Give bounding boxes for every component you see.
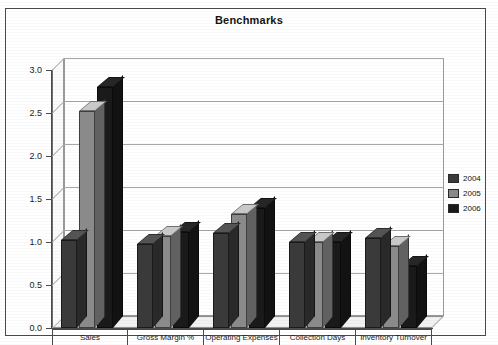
x-axis-category-label: Collection Days [280,330,356,345]
bar-2004-sales [61,240,77,328]
legend-label: 2004 [463,174,481,183]
bar-2004-collection-days [289,242,305,328]
x-axis-category-label: Sales [52,330,128,345]
bar-side-face [171,224,181,328]
legend-swatch-icon [448,204,459,213]
bar-side-face [247,203,257,328]
legend-label: 2006 [463,204,481,213]
legend-item-2004[interactable]: 2004 [448,172,492,185]
x-axis-category-label: Gross Margin % [128,330,204,345]
bar-side-face [265,196,275,328]
x-axis-category-label: Inventory Turnover [356,330,432,345]
bar-front-face [61,240,77,328]
bar-side-face [189,220,199,328]
bar-side-face [417,254,427,328]
legend-swatch-icon [448,189,459,198]
legend-label: 2005 [463,189,481,198]
bar-front-face [289,242,305,328]
y-axis-tick-label: 2.0 [8,151,42,161]
legend-item-2005[interactable]: 2005 [448,187,492,200]
bar-side-face [153,232,163,328]
bar-side-face [323,230,333,328]
bar-front-face [137,244,153,328]
y-axis-tick-label: 2.5 [8,108,42,118]
bar-2004-inventory-turnover [365,238,381,328]
y-axis-tick-label: 1.5 [8,194,42,204]
y-axis-tick-label: 3.0 [8,65,42,75]
y-axis-line [51,70,52,329]
x-axis-category-band: SalesGross Margin %Operating ExpensesCol… [52,329,432,344]
bar-side-face [399,234,409,328]
bar-side-face [381,226,391,328]
bar-side-face [95,99,105,328]
bar-side-face [113,75,123,328]
legend-item-2006[interactable]: 2006 [448,202,492,215]
x-axis-category-label: Operating Expenses [204,330,280,345]
bar-front-face [365,238,381,328]
legend-swatch-icon [448,174,459,183]
bar-2004-operating-expenses [213,233,229,328]
bar-side-face [341,230,351,328]
y-axis-tick-label: 0.0 [8,323,42,333]
y-axis-tick-label: 0.5 [8,280,42,290]
bar-side-face [305,230,315,328]
bar-2004-gross-margin [137,244,153,328]
chart-window: Benchmarks 3.02.52.01.51.00.50.0 SalesGr… [0,0,498,345]
chart-legend: 200420052006 [448,172,492,217]
bar-side-face [229,221,239,328]
gridline [64,58,444,59]
bar-side-face [77,228,87,328]
bar-front-face [213,233,229,328]
plot-area: 3.02.52.01.51.00.50.0 SalesGross Margin … [0,0,498,345]
y-axis-tick-label: 1.0 [8,237,42,247]
